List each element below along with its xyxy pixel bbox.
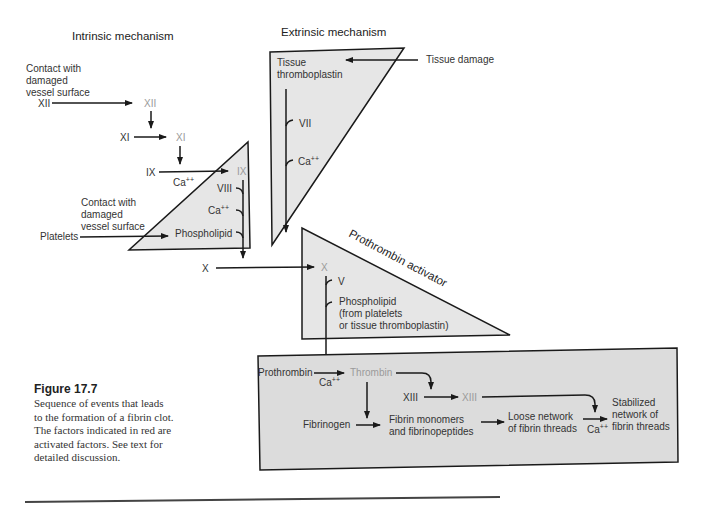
figure-title: Figure 17.7 xyxy=(34,382,97,396)
figure-17-7: Intrinsic mechanism Extrinsic mechanism … xyxy=(0,0,714,511)
factor-ix: IX xyxy=(146,167,156,178)
phospholipid-source-a: Phospholipid xyxy=(339,296,396,307)
fibrin-monomers-b: and fibrinopeptides xyxy=(389,426,474,437)
platelets-label: Platelets xyxy=(40,231,78,242)
ca-label-ix: Ca++ xyxy=(173,176,194,188)
contact-label-2c: vessel surface xyxy=(81,221,145,232)
factor-v: V xyxy=(338,276,345,287)
platelets-arrow xyxy=(80,236,168,237)
factor-x: X xyxy=(202,263,209,274)
contact-label-1c: vessel surface xyxy=(26,87,90,98)
heading-intrinsic: Intrinsic mechanism xyxy=(72,30,174,42)
phospholipid-source-c: or tissue thromboplastin) xyxy=(339,320,449,331)
factor-xii: XII xyxy=(38,98,50,109)
contact-label-1a: Contact with xyxy=(26,63,81,74)
factor-xiii: XIII xyxy=(403,392,418,403)
ix-arrow xyxy=(159,171,228,172)
stabilized-a: Stabilized xyxy=(612,397,655,408)
tissue-label: Tissue xyxy=(277,57,307,68)
factor-xi-active: XI xyxy=(176,132,185,143)
heading-extrinsic: Extrinsic mechanism xyxy=(281,26,386,38)
factor-xii-active: XII xyxy=(144,98,156,109)
factor-xiii-active: XIII xyxy=(462,392,477,403)
tissue-damage-label: Tissue damage xyxy=(426,54,494,65)
factor-x-active: X xyxy=(321,262,328,273)
factor-ix-active: IX xyxy=(237,166,247,177)
thrombin-label: Thrombin xyxy=(350,367,392,378)
prothrombin-label: Prothrombin xyxy=(258,367,312,378)
stabilized-c: fibrin threads xyxy=(612,421,670,432)
loose-network-a: Loose network xyxy=(508,411,574,422)
thromboplastin-label: thromboplastin xyxy=(277,69,343,80)
vii-label: VII xyxy=(299,118,311,129)
factor-xi: XI xyxy=(120,132,129,143)
stabilized-b: network of xyxy=(612,409,658,420)
fibrinogen-label: Fibrinogen xyxy=(303,419,350,430)
contact-label-2a: Contact with xyxy=(81,197,136,208)
loose-network-b: of fibrin threads xyxy=(508,423,577,434)
contact-label-1b: damaged xyxy=(26,75,68,86)
contact-label-2b: damaged xyxy=(81,209,123,220)
figure-caption: Sequence of events that leads to the for… xyxy=(34,397,174,465)
phospholipid-source-b: (from platelets xyxy=(339,308,402,319)
x-arrow xyxy=(216,267,314,268)
fibrin-monomers-a: Fibrin monomers xyxy=(389,414,464,425)
phospholipid-label: Phospholipid xyxy=(175,228,232,239)
factor-viii: VIII xyxy=(217,183,232,194)
